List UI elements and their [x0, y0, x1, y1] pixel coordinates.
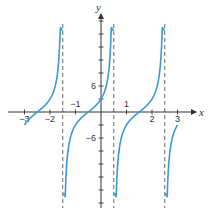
x-tick-label: 2: [149, 114, 154, 124]
tangent-graph: −3−2−11236−6 x y: [0, 0, 215, 216]
x-axis-label: x: [198, 106, 204, 118]
y-tick-label: 6: [91, 81, 96, 91]
y-tick-label: −6: [86, 133, 96, 143]
x-tick-label: −3: [19, 114, 29, 124]
x-tick-label: 3: [175, 114, 180, 124]
y-axis-label: y: [95, 1, 101, 13]
x-tick-label: −2: [45, 114, 55, 124]
x-tick-label: −1: [70, 99, 80, 109]
x-tick-label: 1: [124, 99, 129, 109]
